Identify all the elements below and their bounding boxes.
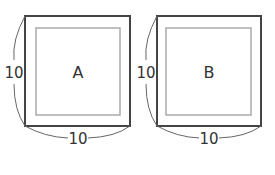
side-label-a: 10 (4, 64, 23, 82)
figure-label-b: B (204, 63, 215, 82)
bottom-label-b: 10 (199, 130, 218, 148)
figure-b: 10 10 B (136, 16, 261, 148)
figure-a: 10 10 A (4, 16, 130, 148)
side-label-b: 10 (136, 64, 155, 82)
diagram: 10 10 A 10 10 B (0, 0, 275, 175)
bottom-label-a: 10 (68, 130, 87, 148)
figure-label-a: A (73, 63, 84, 82)
